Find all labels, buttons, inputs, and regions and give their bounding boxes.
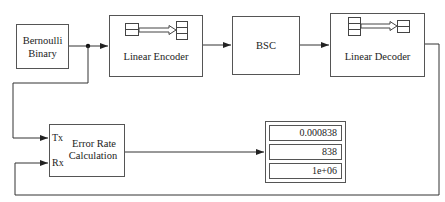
error-rate-calculation-block[interactable]: Tx Rx Error Rate Calculation bbox=[49, 124, 125, 177]
bsc-label: BSC bbox=[233, 39, 299, 52]
linear-encoder-block[interactable]: Linear Encoder bbox=[109, 15, 203, 77]
bernoulli-label-2: Binary bbox=[17, 47, 68, 60]
linear-decoder-block[interactable]: Linear Decoder bbox=[330, 13, 425, 77]
port-tx-label: Tx bbox=[52, 132, 63, 143]
error-rate-label-2: Calculation bbox=[62, 149, 124, 162]
decoder-shift-icon bbox=[348, 17, 418, 39]
encoder-shift-icon bbox=[125, 21, 195, 43]
decoder-label: Linear Decoder bbox=[331, 50, 424, 63]
display-error-count-value: 838 bbox=[269, 144, 342, 160]
bernoulli-binary-block[interactable]: Bernoulli Binary bbox=[16, 24, 69, 69]
encoder-label: Linear Encoder bbox=[110, 50, 202, 63]
display-error-rate-value: 0.000838 bbox=[269, 125, 342, 141]
bernoulli-label-1: Bernoulli bbox=[17, 34, 68, 47]
display-block[interactable]: 0.000838 838 1e+06 bbox=[265, 121, 346, 183]
bsc-block[interactable]: BSC bbox=[232, 16, 300, 75]
display-total-bits-value: 1e+06 bbox=[269, 163, 342, 179]
